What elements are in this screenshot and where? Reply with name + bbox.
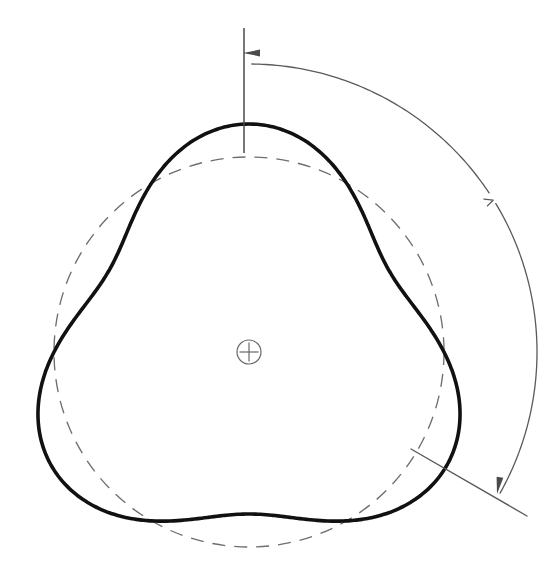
technical-drawing-canvas bbox=[0, 0, 558, 566]
page-background bbox=[0, 0, 558, 566]
drawing-svg bbox=[0, 0, 558, 566]
center-mark bbox=[237, 340, 261, 364]
